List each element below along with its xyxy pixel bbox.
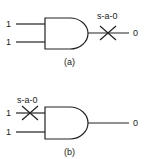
output-value: 0 [133, 118, 138, 128]
stuck-at-fault-diagram: 1 1 s-a-0 0 (a) 1 1 s-a-0 0 (b) [0, 0, 147, 159]
input-2-value: 1 [6, 127, 11, 137]
output-value: 0 [133, 28, 138, 38]
fault-label: s-a-0 [17, 95, 38, 105]
and-gate-icon [45, 18, 88, 49]
input-1-value: 1 [6, 19, 11, 29]
diagram-b: 1 1 s-a-0 0 (b) [6, 95, 138, 157]
caption: (b) [64, 147, 75, 157]
input-2-value: 1 [6, 37, 11, 47]
diagram-a: 1 1 s-a-0 0 (a) [6, 11, 138, 67]
and-gate-icon [45, 107, 88, 139]
input-1-value: 1 [6, 108, 11, 118]
caption: (a) [64, 57, 75, 67]
fault-label: s-a-0 [97, 11, 118, 21]
